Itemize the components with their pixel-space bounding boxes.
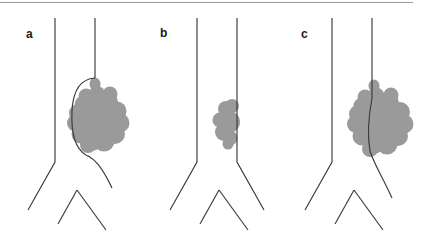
figure-root: a: [0, 0, 425, 249]
branch-septum-left-a: [58, 190, 77, 224]
branch-septum-left-c: [335, 190, 354, 224]
panel-a: a: [0, 10, 142, 249]
branch-septum-left-b: [200, 190, 219, 224]
branch-septum-right-b: [219, 190, 248, 230]
branch-septum-right-a: [77, 190, 106, 230]
branch-septum-right-c: [354, 190, 383, 230]
plaque-mass-c: [347, 80, 414, 158]
plaque-mass-b: [213, 99, 241, 150]
vessel-wall-left-b: [170, 18, 197, 210]
panel-a-illustration: [0, 10, 142, 249]
vessel-wall-left-c: [305, 18, 332, 210]
panel-b: b: [142, 10, 284, 249]
panel-c-illustration: [284, 10, 425, 249]
panel-b-illustration: [142, 10, 284, 249]
top-divider-rule: [0, 2, 413, 3]
vessel-wall-right-b: [237, 18, 264, 210]
panel-c: c: [284, 10, 425, 249]
plaque-mass-a: [67, 78, 130, 154]
vessel-wall-left-a: [28, 18, 55, 210]
